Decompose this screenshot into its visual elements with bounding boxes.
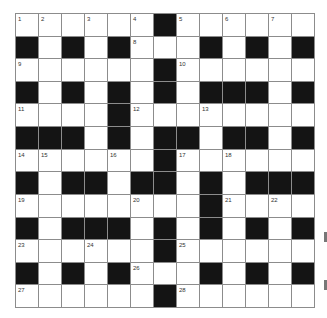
crossword-cell[interactable] (223, 263, 245, 285)
crossword-cell[interactable] (269, 218, 291, 240)
crossword-cell[interactable]: 22 (269, 195, 291, 217)
crossword-cell[interactable] (292, 285, 314, 307)
crossword-cell[interactable] (223, 285, 245, 307)
crossword-cell[interactable] (177, 195, 199, 217)
crossword-cell[interactable]: 19 (16, 195, 38, 217)
crossword-cell[interactable]: 26 (131, 263, 153, 285)
crossword-cell[interactable] (177, 82, 199, 104)
crossword-cell[interactable]: 6 (223, 14, 245, 36)
crossword-cell[interactable] (269, 285, 291, 307)
crossword-cell[interactable] (108, 195, 130, 217)
crossword-cell[interactable] (154, 195, 176, 217)
crossword-cell[interactable]: 3 (85, 14, 107, 36)
crossword-cell[interactable]: 28 (177, 285, 199, 307)
crossword-cell[interactable] (292, 195, 314, 217)
crossword-cell[interactable]: 15 (39, 150, 61, 172)
crossword-cell[interactable]: 27 (16, 285, 38, 307)
crossword-cell[interactable] (292, 150, 314, 172)
crossword-cell[interactable] (246, 14, 268, 36)
crossword-cell[interactable] (154, 37, 176, 59)
crossword-cell[interactable] (62, 195, 84, 217)
crossword-cell[interactable] (85, 263, 107, 285)
crossword-cell[interactable] (200, 150, 222, 172)
crossword-cell[interactable] (62, 59, 84, 81)
crossword-cell[interactable]: 11 (16, 104, 38, 126)
crossword-cell[interactable]: 13 (200, 104, 222, 126)
crossword-cell[interactable]: 23 (16, 240, 38, 262)
crossword-cell[interactable] (223, 37, 245, 59)
crossword-cell[interactable] (131, 59, 153, 81)
crossword-cell[interactable] (269, 82, 291, 104)
crossword-cell[interactable]: 21 (223, 195, 245, 217)
crossword-cell[interactable] (108, 14, 130, 36)
crossword-cell[interactable] (131, 127, 153, 149)
crossword-cell[interactable] (62, 240, 84, 262)
crossword-cell[interactable] (131, 240, 153, 262)
crossword-cell[interactable] (62, 285, 84, 307)
crossword-cell[interactable]: 1 (16, 14, 38, 36)
crossword-cell[interactable] (292, 14, 314, 36)
crossword-cell[interactable] (177, 104, 199, 126)
crossword-cell[interactable] (246, 240, 268, 262)
crossword-cell[interactable] (131, 150, 153, 172)
crossword-cell[interactable]: 2 (39, 14, 61, 36)
crossword-cell[interactable]: 17 (177, 150, 199, 172)
crossword-cell[interactable] (269, 127, 291, 149)
crossword-cell[interactable] (85, 127, 107, 149)
crossword-cell[interactable]: 5 (177, 14, 199, 36)
crossword-cell[interactable]: 12 (131, 104, 153, 126)
crossword-cell[interactable] (39, 240, 61, 262)
crossword-cell[interactable]: 20 (131, 195, 153, 217)
crossword-cell[interactable] (108, 240, 130, 262)
crossword-cell[interactable] (246, 150, 268, 172)
crossword-cell[interactable] (85, 37, 107, 59)
crossword-cell[interactable] (177, 37, 199, 59)
crossword-cell[interactable]: 9 (16, 59, 38, 81)
crossword-cell[interactable] (200, 59, 222, 81)
crossword-cell[interactable] (246, 59, 268, 81)
crossword-cell[interactable] (223, 59, 245, 81)
crossword-cell[interactable]: 8 (131, 37, 153, 59)
crossword-cell[interactable]: 14 (16, 150, 38, 172)
crossword-cell[interactable] (269, 240, 291, 262)
crossword-cell[interactable] (39, 59, 61, 81)
crossword-cell[interactable] (131, 285, 153, 307)
crossword-cell[interactable] (177, 218, 199, 240)
crossword-cell[interactable] (200, 14, 222, 36)
crossword-cell[interactable] (200, 285, 222, 307)
crossword-cell[interactable] (223, 218, 245, 240)
crossword-cell[interactable] (246, 285, 268, 307)
crossword-cell[interactable] (62, 150, 84, 172)
crossword-cell[interactable] (108, 172, 130, 194)
crossword-cell[interactable] (223, 172, 245, 194)
crossword-cell[interactable] (177, 263, 199, 285)
crossword-cell[interactable] (39, 218, 61, 240)
crossword-cell[interactable] (223, 104, 245, 126)
crossword-cell[interactable] (39, 195, 61, 217)
crossword-cell[interactable] (39, 172, 61, 194)
crossword-cell[interactable] (39, 285, 61, 307)
crossword-cell[interactable] (131, 218, 153, 240)
crossword-cell[interactable]: 7 (269, 14, 291, 36)
crossword-cell[interactable] (269, 37, 291, 59)
crossword-cell[interactable] (62, 14, 84, 36)
crossword-cell[interactable] (85, 82, 107, 104)
crossword-cell[interactable]: 4 (131, 14, 153, 36)
crossword-cell[interactable] (292, 59, 314, 81)
crossword-cell[interactable] (62, 104, 84, 126)
crossword-cell[interactable] (269, 59, 291, 81)
crossword-cell[interactable] (39, 263, 61, 285)
crossword-cell[interactable] (177, 172, 199, 194)
crossword-cell[interactable] (154, 104, 176, 126)
crossword-cell[interactable] (39, 37, 61, 59)
crossword-cell[interactable] (85, 59, 107, 81)
crossword-cell[interactable] (269, 104, 291, 126)
crossword-cell[interactable] (269, 150, 291, 172)
crossword-cell[interactable]: 25 (177, 240, 199, 262)
crossword-cell[interactable]: 24 (85, 240, 107, 262)
crossword-cell[interactable] (292, 240, 314, 262)
crossword-cell[interactable]: 16 (108, 150, 130, 172)
crossword-cell[interactable] (85, 150, 107, 172)
crossword-cell[interactable]: 18 (223, 150, 245, 172)
crossword-cell[interactable] (246, 104, 268, 126)
